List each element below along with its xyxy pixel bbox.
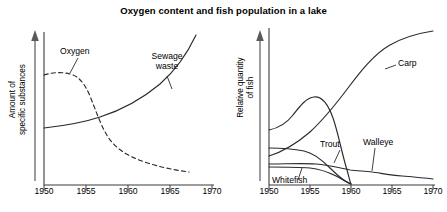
curve-label-sewage-line1: Sewage [151,51,182,61]
x-tick-label: 1970 [418,186,447,196]
x-tick-label: 1965 [155,186,185,196]
x-tick-label: 1960 [113,186,143,196]
figure-container: Oxygen content and fish population in a … [0,0,447,212]
leader-line-oxygen [70,58,78,73]
leader-line-walleye [372,148,375,171]
series-curve-oxygen [44,73,189,172]
chart-panel-left: Amount of specific substances [0,18,230,212]
y-axis-label-left-line2: specific substances [18,64,27,135]
curve-label-carp: Carp [398,58,417,68]
x-tick-label: 1965 [377,186,407,196]
chart-svg-left [0,18,230,212]
x-tick-label: 1955 [71,186,101,196]
x-tick-label: 1950 [29,186,59,196]
x-tick-label: 1960 [336,186,366,196]
x-tick-label: 1955 [295,186,325,196]
curve-label-walleye: Walleye [363,137,393,147]
y-axis-label-left: Amount of specific substances [8,50,27,150]
y-axis-label-left-line1: Amount of [8,81,17,118]
leader-line-sewage-waste [167,76,172,89]
chart-panel-right: Relative quantity of fish [230,18,447,212]
figure-title: Oxygen content and fish population in a … [0,5,447,16]
y-axis-arrow-left [31,30,39,181]
y-axis-label-right-line1: Relative quantity [236,57,245,118]
x-tick-label: 1970 [197,186,227,196]
y-axis-arrow-right [256,30,264,181]
y-axis-label-right: Relative quantity of fish [236,42,255,134]
y-axis-label-right-line2: of fish [246,77,255,99]
curve-label-oxygen: Oxygen [60,46,90,56]
curve-label-trout: Trout [320,139,340,149]
leader-line-carp [385,65,396,69]
curve-label-sewage-waste: Sewage waste [143,51,191,71]
leader-line-trout [334,150,340,163]
curve-label-sewage-line2: waste [156,61,178,71]
chart-svg-right [230,18,447,212]
series-curve-carp [269,31,433,156]
x-tick-label: 1950 [254,186,284,196]
curve-label-whitefish: Whitefish [272,175,307,185]
